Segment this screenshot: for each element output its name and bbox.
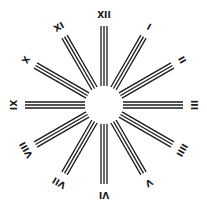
ray-line <box>119 63 171 93</box>
ray-line <box>122 112 174 142</box>
ray-xii: XII <box>97 10 111 86</box>
ray-line <box>37 117 89 147</box>
ray-line <box>62 120 92 172</box>
ray-line <box>67 123 97 175</box>
clock-ray-diagram: XIIIIIIIIIIIIVVIVIIVIIIIXXXI <box>0 0 207 215</box>
roman-numeral-sunburst: XIIIIIIIIIIIIVVIVIIVIIIIXXXI <box>0 0 207 215</box>
numeral-label: IX <box>9 100 19 110</box>
ray-line <box>119 117 171 147</box>
numeral-label: I <box>145 22 153 32</box>
numeral-label: V <box>143 177 154 189</box>
ray-line <box>116 120 146 172</box>
numeral-label: VI <box>99 190 109 200</box>
ray-line <box>67 35 97 87</box>
ray-vii: VII <box>51 118 101 191</box>
numeral-label: IIII <box>174 142 189 159</box>
ray-line <box>111 123 141 175</box>
ray-line <box>111 35 141 87</box>
numeral-label: VIII <box>17 140 34 160</box>
ray-xi: XI <box>52 20 99 91</box>
numeral-label: II <box>176 55 188 66</box>
ray-line <box>34 68 86 98</box>
ray-line <box>37 63 89 93</box>
ray-ix: IX <box>9 100 85 110</box>
ray-line <box>116 38 146 90</box>
numeral-label: III <box>189 100 199 110</box>
numeral-label: VII <box>51 175 68 190</box>
numeral-label: XI <box>52 20 66 34</box>
ray-line <box>62 38 92 90</box>
ray-iiii: IIII <box>117 109 190 159</box>
ray-vi: VI <box>99 124 109 200</box>
numeral-label: XII <box>97 10 111 20</box>
ray-line <box>34 112 86 142</box>
numeral-label: X <box>20 54 32 65</box>
ray-line <box>122 68 174 98</box>
ray-iii: III <box>123 100 199 110</box>
center-hub <box>85 86 123 124</box>
